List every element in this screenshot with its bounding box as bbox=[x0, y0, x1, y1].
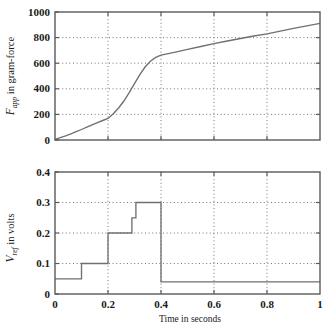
force-plot-data-line bbox=[55, 23, 320, 139]
force-y-tick-800: 800 bbox=[34, 31, 51, 43]
force-y-tick-600: 600 bbox=[34, 57, 51, 69]
force-y-tick-400: 400 bbox=[34, 82, 51, 94]
force-plot: 0 200 400 600 800 1000 Fapp in gram-forc… bbox=[4, 6, 320, 146]
voltage-x-tick-1: 1 bbox=[317, 298, 323, 310]
force-plot-gridlines-vertical bbox=[108, 12, 267, 140]
force-plot-x-ticks bbox=[108, 12, 267, 140]
voltage-y-tick-03: 0.3 bbox=[36, 196, 50, 208]
force-y-axis-subscript: app bbox=[10, 97, 19, 109]
voltage-plot-x-tick-labels: 0 0.2 0.4 0.6 0.8 1 bbox=[52, 298, 323, 310]
voltage-x-tick-02: 0.2 bbox=[101, 298, 115, 310]
voltage-plot-data-line bbox=[55, 203, 320, 282]
force-y-tick-1000: 1000 bbox=[28, 6, 51, 18]
voltage-x-tick-0: 0 bbox=[52, 298, 58, 310]
force-plot-y-axis-title: Fapp in gram-force bbox=[4, 36, 19, 116]
voltage-plot: 0 0.1 0.2 0.3 0.4 0 0.2 0.4 0.6 0.8 1 Ti… bbox=[4, 166, 323, 324]
svg-text:Vref in volts: Vref in volts bbox=[4, 214, 19, 263]
dual-plot-figure: 0 200 400 600 800 1000 Fapp in gram-forc… bbox=[0, 0, 330, 334]
figure-container: 0 200 400 600 800 1000 Fapp in gram-forc… bbox=[0, 0, 330, 334]
voltage-plot-y-axis-title: Vref in volts bbox=[4, 214, 19, 263]
voltage-x-tick-04: 0.4 bbox=[154, 298, 168, 310]
voltage-y-axis-suffix: in volts bbox=[5, 214, 16, 248]
svg-text:Fapp in gram-force: Fapp in gram-force bbox=[4, 36, 19, 116]
voltage-plot-gridlines-horizontal bbox=[55, 203, 320, 264]
force-y-tick-0: 0 bbox=[45, 134, 51, 146]
voltage-plot-x-axis-title: Time in seconds bbox=[159, 314, 221, 324]
voltage-plot-y-tick-labels: 0 0.1 0.2 0.3 0.4 bbox=[36, 166, 50, 300]
force-y-tick-200: 200 bbox=[34, 108, 51, 120]
voltage-y-tick-01: 0.1 bbox=[36, 257, 50, 269]
voltage-x-tick-06: 0.6 bbox=[207, 298, 221, 310]
voltage-y-tick-04: 0.4 bbox=[36, 166, 50, 178]
voltage-y-tick-0: 0 bbox=[45, 288, 51, 300]
voltage-x-tick-08: 0.8 bbox=[260, 298, 274, 310]
voltage-y-tick-02: 0.2 bbox=[36, 227, 50, 239]
force-y-axis-suffix: in gram-force bbox=[5, 36, 16, 96]
force-plot-y-tick-labels: 0 200 400 600 800 1000 bbox=[28, 6, 51, 146]
